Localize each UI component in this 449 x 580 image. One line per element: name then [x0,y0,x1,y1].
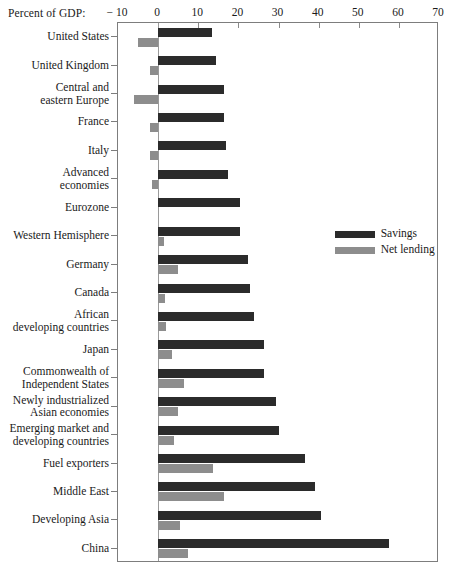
bar-savings [158,198,240,207]
category-label: African developing countries [2,308,109,333]
category-tick [111,93,117,94]
category-tick [111,178,117,179]
bar-net-lending [158,407,178,416]
bar-savings [158,56,216,65]
bar-savings [158,426,278,435]
bar-savings [158,340,264,349]
category-label: Canada [2,286,109,299]
bar-savings [158,255,248,264]
bar-net-lending [158,350,172,359]
category-tick [111,377,117,378]
category-label: Central and eastern Europe [2,81,109,106]
category-label: France [2,115,109,128]
legend-label-net-lending: Net lending [381,243,435,255]
category-tick [111,207,117,208]
category-label: Developing Asia [2,513,109,526]
category-tick [111,463,117,464]
bar-savings [158,170,228,179]
x-tick-30 [279,23,280,28]
category-tick [111,65,117,66]
category-tick [111,292,117,293]
bar-net-lending [158,464,213,473]
category-tick [111,548,117,549]
bar-savings [158,369,264,378]
bar-savings [158,539,389,548]
bar-net-lending [138,38,158,47]
bar-savings [158,141,226,150]
bar-net-lending [158,549,188,558]
category-tick [111,406,117,407]
bar-savings [158,482,314,491]
x-tick-label-10: 10 [192,6,204,18]
bar-net-lending [158,265,178,274]
x-tick-20 [238,23,239,28]
category-label: Japan [2,343,109,356]
category-label: China [2,542,109,555]
bar-net-lending [158,436,174,445]
legend-label-savings: Savings [381,227,417,239]
x-axis-tick-labels: − 10010203040506070 [0,6,449,22]
x-tick-label-70: 70 [432,6,444,18]
category-label: Middle East [2,485,109,498]
x-tick-label-30: 30 [272,6,284,18]
bar-net-lending [134,95,158,104]
category-label: Fuel exporters [2,456,109,469]
x-tick-label-20: 20 [232,6,244,18]
plot-area: Savings Net lending [117,22,438,562]
x-tick-label-50: 50 [352,6,364,18]
category-tick [111,150,117,151]
category-label: United States [2,30,109,43]
category-tick [111,235,117,236]
category-tick [111,264,117,265]
bar-savings [158,113,224,122]
bar-savings [158,397,276,406]
bar-net-lending [158,492,224,501]
category-label: Germany [2,257,109,270]
x-tick-50 [359,23,360,28]
bar-net-lending [158,322,166,331]
category-tick [111,491,117,492]
bar-net-lending [158,379,184,388]
bar-net-lending [150,151,158,160]
legend-swatch-net-lending [335,247,375,254]
x-tick-label-40: 40 [312,6,324,18]
bar-savings [158,284,250,293]
category-label: Emerging market and developing countries [2,422,109,447]
category-tick [111,519,117,520]
bar-net-lending [152,180,158,189]
category-label: United Kingdom [2,58,109,71]
category-label: Italy [2,144,109,157]
x-tick-label-60: 60 [392,6,404,18]
bar-savings [158,28,212,37]
bar-net-lending [158,521,180,530]
category-tick [111,320,117,321]
category-tick [111,434,117,435]
category-label: Eurozone [2,200,109,213]
x-tick-60 [399,23,400,28]
bar-savings [158,454,304,463]
x-tick-label-0: 0 [154,6,160,18]
savings-net-lending-bar-chart: Percent of GDP: − 10010203040506070 Savi… [0,0,449,580]
x-tick-40 [319,23,320,28]
bar-savings [158,312,254,321]
bar-net-lending [158,294,165,303]
bar-net-lending [150,123,158,132]
bar-net-lending [150,66,158,75]
legend-swatch-savings [335,231,375,238]
bar-savings [158,511,321,520]
category-label: Advanced economies [2,166,109,191]
category-tick [111,36,117,37]
bar-net-lending [158,237,164,246]
category-label: Western Hemisphere [2,229,109,242]
bar-savings [158,85,224,94]
category-label: Newly industrialized Asian economies [2,393,109,418]
category-tick [111,349,117,350]
x-tick-label--10: − 10 [107,6,128,18]
bar-savings [158,227,240,236]
category-label: Commonwealth of Independent States [2,365,109,390]
category-tick [111,121,117,122]
